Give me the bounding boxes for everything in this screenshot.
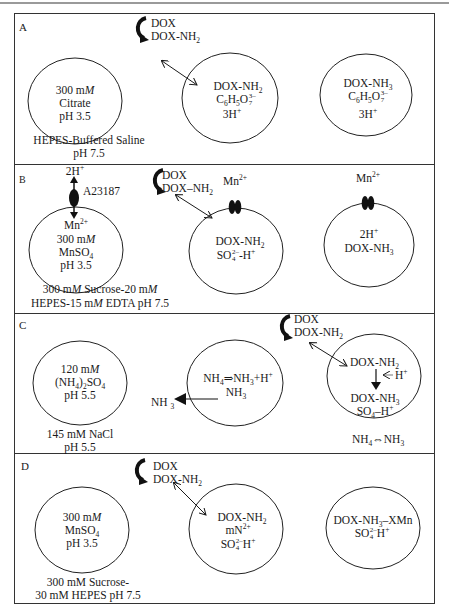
d2-line2: mN2+: [225, 524, 250, 537]
flip-text-b-doxnh2: DOX–NH2: [162, 182, 213, 195]
d2-line3: SO2–4H+: [221, 538, 256, 552]
flip-text-c-doxnh2: DOX-NH2: [294, 326, 343, 339]
mn-channel-icon-b3: [362, 196, 375, 210]
buffer-c-line2: pH 5.5: [64, 441, 95, 454]
d3-line2: SO2–4H+: [355, 527, 390, 541]
channel-label-b2: Mn2+: [223, 175, 247, 188]
flip-text-a-doxnh2: DOX-NH2: [151, 30, 200, 43]
flip-text-a-dox: DOX: [151, 17, 176, 30]
c2-line2: NH3: [226, 386, 246, 399]
buffer-a-line2: pH 7.5: [73, 147, 104, 160]
buffer-d-line2: 30 mM HEPES pH 7.5: [35, 589, 141, 602]
buffer-b-line2: HEPES-15 mM EDTA pH 7.5: [31, 297, 169, 310]
flip-arrow-icon-a: [138, 18, 149, 43]
ionophore-icon: [69, 176, 79, 219]
b1-line3: MnSO4: [59, 246, 93, 259]
channel-label-b3: Mn2+: [356, 172, 380, 185]
d3-line1: DOX-NH3–XMn: [333, 514, 412, 527]
a1-line3: pH 3.5: [59, 110, 90, 123]
c2-line1: NH4⇒NH3+H+: [203, 372, 272, 385]
a1-line1: 300 mM: [56, 84, 95, 97]
ionophore-out-label: 2H+: [66, 165, 84, 178]
flip-text-d-dox: DOX: [153, 460, 178, 473]
a2-line1: DOX-NH2: [213, 80, 262, 93]
b2-line2: SO2–4-H+: [217, 249, 256, 263]
panel-label-a: A: [19, 21, 27, 34]
efflux-label: NH 3: [151, 396, 174, 409]
nh3-efflux-arrowhead: [174, 393, 186, 405]
b3-line1: 2H+: [360, 228, 378, 241]
c1-line1: 120 mM: [61, 363, 100, 376]
a3-line3: 3H+: [359, 108, 377, 121]
b1-line2: 300 mM: [57, 233, 96, 246]
c3-line4: SO4–H+: [357, 405, 394, 418]
diffusion-arrow-c: [310, 343, 347, 366]
equilibrium-label: NH4⇔NH3: [352, 433, 404, 446]
b1-line1: Mn2+: [64, 219, 88, 232]
diffusion-arrow-a: [162, 61, 197, 85]
a2-line3: 3H+: [223, 108, 241, 121]
c1-line2: (NH4)2SO4: [55, 376, 105, 389]
b1-line4: pH 3.5: [60, 259, 91, 272]
mn-channel-icon-b2: [229, 200, 242, 214]
d1-line2: MnSO4: [65, 524, 99, 537]
a1-line2: Citrate: [59, 97, 90, 110]
c1-line3: pH 5.5: [64, 389, 95, 402]
diffusion-arrow-b: [176, 195, 212, 218]
flip-text-d-doxnh2: DOX-NH2: [153, 473, 202, 486]
a3-line1: DOX-NH3: [343, 77, 392, 90]
c3-proton: H+: [395, 369, 408, 382]
buffer-d-line1: 300 mM Sucrose-: [47, 576, 129, 589]
flip-arrow-icon-d: [137, 460, 148, 485]
buffer-c-line1: 145 mM NaCl: [47, 428, 113, 441]
d1-line3: pH 3.5: [66, 537, 97, 550]
panel-label-b: B: [19, 173, 26, 186]
b3-line2: DOX-NH3: [344, 242, 393, 255]
ionophore-name: A23187: [83, 185, 120, 198]
panel-label-c: C: [19, 319, 26, 332]
panel-label-d: D: [21, 460, 29, 473]
c3-line1: DOX-NH2: [350, 356, 399, 369]
buffer-a-line1: HEPES-Buffered Saline: [33, 134, 144, 147]
flip-text-c-dox: DOX: [294, 313, 319, 326]
d1-line1: 300 mM: [63, 511, 102, 524]
flip-arrow-icon-c: [282, 316, 293, 341]
flip-text-b-dox: DOX: [162, 169, 187, 182]
b2-line1: DOX-NH2: [215, 235, 264, 248]
buffer-b-line1: 300 mM Sucrose-20 mM: [43, 283, 158, 296]
a3-line2: C6H5O3–7: [348, 90, 387, 104]
